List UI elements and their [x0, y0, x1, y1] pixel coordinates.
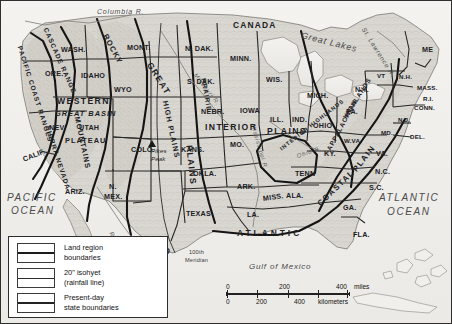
scale-miles-unit: miles	[354, 283, 369, 290]
state-label-ala: ALA.	[286, 192, 304, 199]
map-screenshot: CANADA MEXICO PACIFIC OCEAN ATLANTIC OCE…	[0, 0, 452, 324]
ocean-label-pacific: PACIFIC	[7, 193, 57, 203]
scale-km-tick-0: 0	[226, 298, 230, 305]
state-label-wis: WIS.	[266, 76, 282, 83]
state-label-mont: MONT.	[127, 44, 150, 51]
scale-miles-row: 0 200 400 miles	[226, 283, 386, 292]
state-label-mich: MICH.	[307, 92, 328, 99]
ocean-label-pacific-2: OCEAN	[11, 206, 55, 216]
state-label-fla: FLA.	[353, 231, 370, 238]
pikes-peak-label-line1: Pikes	[151, 148, 167, 154]
legend-item-isohyet: 20" isohyet (rainfall line)	[17, 268, 104, 288]
map-scale-bar: 0 200 400 miles 0 200 400 kilometers	[226, 283, 386, 292]
scale-miles-tick-0: 0	[226, 283, 230, 290]
state-label-mex: MEX.	[104, 193, 122, 200]
region-label-atlantic-coastal: ATLANTIC	[237, 229, 302, 237]
state-label-del: DEL.	[410, 134, 425, 140]
state-label-la: LA.	[247, 211, 259, 218]
legend-item-state-boundaries: Present-day state boundaries	[17, 293, 119, 313]
state-label-texas: TEXAS	[186, 210, 211, 217]
state-label-ind: IND.	[292, 116, 307, 123]
meridian-label-line1: 100th	[189, 250, 204, 256]
state-label-wash: WASH.	[61, 46, 86, 53]
state-label-mo: MO.	[230, 141, 244, 148]
state-label-ky: KY.	[324, 150, 336, 157]
meridian-label-line2: Meridian	[185, 258, 208, 264]
legend-land-region-line2: boundaries	[64, 253, 103, 263]
legend-isohyet-line1: 20" isohyet	[64, 268, 104, 278]
state-label-ga: GA.	[343, 204, 356, 211]
caribbean-islands	[353, 249, 447, 313]
state-label-wva: W.VA.	[344, 138, 362, 144]
state-label-okla: OKLA.	[193, 170, 216, 177]
region-label-plateau: PLATEAU	[65, 137, 106, 144]
legend-swatch-isohyet	[17, 268, 55, 288]
state-label-ariz: ARIZ.	[65, 188, 85, 195]
state-label-minn: MINN.	[230, 55, 251, 62]
state-label-me: ME	[422, 46, 433, 53]
state-label-va: VA.	[376, 150, 388, 157]
state-label-n-dak: N. DAK.	[185, 45, 213, 52]
state-label-pa: PA.	[346, 108, 358, 115]
state-label-nc: N.C.	[375, 168, 390, 175]
scale-km-unit: kilometers	[318, 298, 348, 305]
legend-swatch-state	[17, 293, 55, 313]
state-label-vt: VT	[377, 73, 385, 79]
legend-land-region-line1: Land region	[64, 243, 103, 253]
ocean-label-atlantic: ATLANTIC	[379, 193, 439, 203]
state-label-ny: N.Y.	[355, 86, 369, 93]
scale-bar-graphic	[226, 292, 350, 296]
state-label-ri: R.I.	[423, 96, 433, 102]
state-label-ark: ARK.	[237, 183, 255, 190]
state-label-nebr: NEBR.	[201, 108, 224, 115]
state-label-n: N.	[109, 183, 117, 190]
legend-label-state: Present-day state boundaries	[64, 293, 119, 312]
state-label-nev: NEV.	[49, 124, 66, 131]
legend-state-line1: Present-day	[64, 293, 119, 303]
state-label-nj: N.J.	[398, 117, 410, 123]
state-label-ohio: OHIO	[313, 122, 332, 129]
state-label-wyo: WYO	[114, 86, 132, 93]
scale-km-tick-200: 200	[256, 298, 267, 305]
state-label-kans: KANS.	[181, 146, 204, 153]
state-label-s-dak: S. DAK.	[187, 78, 215, 85]
state-label-ore: ORE.	[45, 70, 63, 77]
legend-swatch-land-region	[17, 243, 55, 263]
gulf-of-mexico-label: Gulf of Mexico	[249, 263, 311, 271]
state-label-nh: N.H.	[399, 74, 412, 80]
region-label-interior: INTERIOR	[205, 123, 257, 132]
map-frame: CANADA MEXICO PACIFIC OCEAN ATLANTIC OCE…	[0, 0, 452, 324]
state-label-utah: UTAH	[79, 124, 99, 131]
region-label-great-basin: GREAT BASIN	[55, 110, 116, 117]
state-label-tenn: TENN	[295, 170, 315, 177]
pikes-peak-label-line2: Peak	[151, 156, 165, 162]
legend-state-line2: state boundaries	[64, 303, 119, 313]
scale-km-tick-400: 400	[294, 298, 305, 305]
state-label-mass: MASS.	[417, 85, 438, 91]
state-label-sc: S.C.	[369, 184, 384, 191]
country-label-canada: CANADA	[233, 21, 277, 29]
state-label-md: MD.	[381, 130, 393, 136]
scale-miles-tick-200: 200	[279, 283, 290, 290]
legend-isohyet-line2: (rainfall line)	[64, 278, 104, 288]
region-label-western: WESTERN	[57, 97, 110, 106]
state-label-conn: CONN.	[414, 105, 435, 111]
legend-label-isohyet: 20" isohyet (rainfall line)	[64, 268, 104, 287]
map-legend: Land region boundaries 20" isohyet (rain…	[8, 236, 168, 318]
state-label-ill: ILL.	[270, 116, 284, 123]
scale-miles-tick-400: 400	[336, 283, 347, 290]
state-label-idaho: IDAHO	[81, 72, 105, 79]
state-label-iowa: IOWA	[240, 107, 260, 114]
river-label-columbia: Columbia R.	[97, 8, 144, 15]
ocean-label-atlantic-2: OCEAN	[387, 207, 431, 217]
legend-label-land-region: Land region boundaries	[64, 243, 103, 262]
legend-item-land-region-boundaries: Land region boundaries	[17, 243, 103, 263]
